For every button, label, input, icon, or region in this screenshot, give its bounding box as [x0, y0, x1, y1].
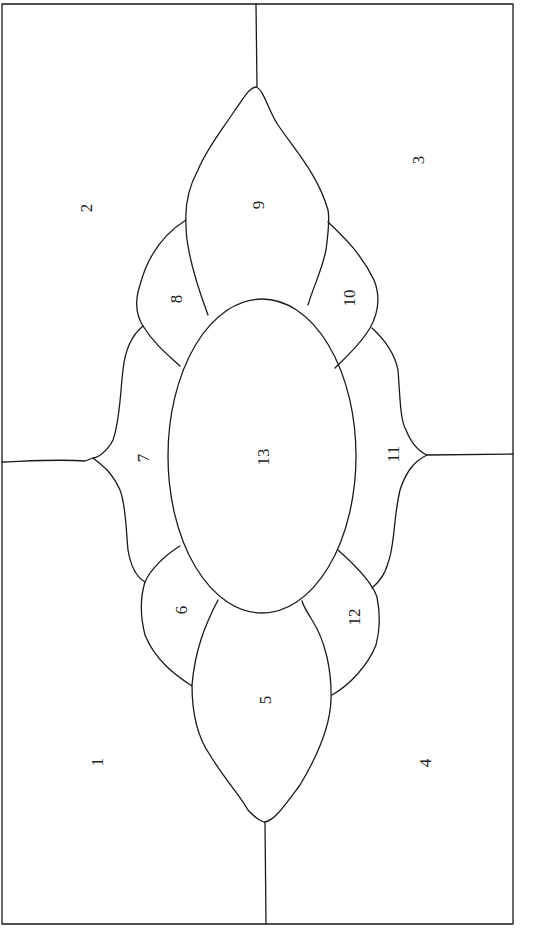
piece-8-outline [137, 220, 186, 366]
label-4: 4 [416, 758, 435, 767]
label-1: 1 [88, 758, 107, 767]
piece-5-outline [192, 600, 331, 822]
divider-bottom [265, 822, 266, 924]
label-12: 12 [345, 609, 364, 626]
divider-left [2, 458, 93, 462]
region-labels: 1 2 3 4 5 6 7 8 9 10 11 12 13 [77, 156, 435, 768]
pattern-svg: 1 2 3 4 5 6 7 8 9 10 11 12 13 [0, 0, 533, 928]
label-11: 11 [384, 446, 403, 462]
label-3: 3 [409, 156, 428, 165]
pattern-diagram: 1 2 3 4 5 6 7 8 9 10 11 12 13 [0, 0, 533, 928]
label-6: 6 [172, 606, 191, 615]
label-5: 5 [256, 696, 275, 705]
piece-6-outline [141, 546, 192, 686]
label-9: 9 [249, 201, 268, 210]
label-10: 10 [340, 290, 359, 307]
label-2: 2 [77, 204, 96, 213]
divider-right [427, 454, 513, 455]
label-13: 13 [254, 449, 273, 466]
divider-top [256, 4, 257, 87]
label-8: 8 [167, 295, 186, 304]
label-7: 7 [134, 453, 153, 462]
